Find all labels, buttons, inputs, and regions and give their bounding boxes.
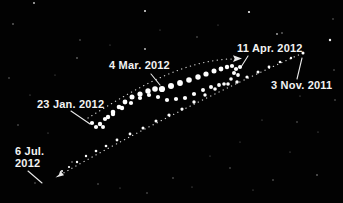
mars-dot: [183, 96, 187, 100]
star-dot: [332, 18, 333, 19]
arrowhead-retrograde-end-icon: [233, 55, 242, 62]
prograde-track-dotted-line: [60, 53, 303, 175]
mars-dot: [167, 113, 170, 116]
mars-dot: [219, 67, 224, 72]
mars-dot: [129, 101, 133, 105]
mars-dot: [94, 125, 98, 129]
mars-position-dots: [61, 52, 305, 173]
star-dot: [146, 192, 147, 193]
mars-dot: [142, 127, 145, 130]
mars-dot: [177, 80, 183, 86]
mars-dot: [90, 121, 94, 125]
mars-dot: [234, 67, 238, 71]
pointer-line-11-apr: [241, 56, 248, 67]
mars-dot: [226, 82, 230, 86]
mars-dot: [129, 133, 132, 136]
mars-dot: [203, 71, 208, 76]
mars-dot: [106, 115, 110, 119]
star-dot: [159, 29, 160, 30]
star-dot: [71, 161, 73, 163]
star-dot: [296, 121, 297, 122]
mars-dot: [225, 65, 229, 69]
star-dot: [196, 36, 197, 37]
date-label-23-jan-2012: 23 Jan. 2012: [37, 98, 104, 110]
mars-dot: [209, 85, 213, 89]
star-dot: [248, 11, 250, 13]
mars-dot: [117, 105, 122, 110]
mars-dot: [212, 69, 217, 74]
mars-dot: [279, 61, 282, 64]
mars-dot: [111, 110, 116, 115]
mars-dot: [245, 75, 248, 78]
date-label-11-apr-2012: 11 Apr. 2012: [237, 42, 303, 54]
star-dot: [47, 132, 48, 133]
mars-dot: [222, 82, 226, 86]
mars-dot: [290, 57, 292, 59]
star-dot: [97, 183, 98, 184]
mars-dot: [229, 77, 233, 81]
mars-dot: [152, 86, 158, 92]
date-label-3-nov-2011: 3 Nov. 2011: [271, 79, 332, 91]
mars-dot: [268, 66, 271, 69]
star-dot: [252, 189, 253, 190]
mars-dot: [238, 65, 242, 69]
star-dot: [54, 74, 55, 75]
mars-dot: [155, 120, 158, 123]
mars-dot: [95, 150, 98, 153]
mars-dot: [145, 88, 150, 93]
star-dot: [217, 24, 218, 25]
star-dot: [209, 155, 210, 156]
star-dot: [17, 124, 18, 125]
star-dot: [239, 141, 240, 142]
mars-dot: [192, 100, 195, 103]
mars-dot: [101, 125, 105, 129]
mars-dot: [232, 71, 236, 75]
star-dot: [144, 48, 146, 50]
mars-dot: [105, 145, 108, 148]
mars-retrograde-figure: 4 Mar. 2012 11 Apr. 2012 3 Nov. 2011 23 …: [0, 0, 343, 203]
star-dot: [334, 99, 335, 100]
mars-dot: [116, 139, 119, 142]
star-dot: [316, 174, 318, 176]
mars-dot: [186, 77, 192, 83]
mars-dot: [98, 122, 102, 126]
star-dot: [33, 2, 35, 4]
mars-dot: [130, 95, 135, 100]
mars-dot: [137, 91, 142, 96]
pointer-line-6-jul: [28, 171, 42, 183]
mars-dot: [235, 80, 238, 83]
mars-dot: [85, 155, 87, 157]
pointer-line-4-mar: [151, 74, 160, 85]
mars-dot: [217, 83, 221, 87]
star-dot: [317, 131, 318, 132]
star-dot: [119, 187, 120, 188]
mars-dot: [203, 93, 206, 96]
mars-dot: [156, 95, 160, 99]
star-dot: [12, 23, 14, 25]
mars-dot: [61, 170, 63, 172]
pointer-line-3-nov: [297, 58, 302, 79]
mars-dot: [76, 161, 78, 163]
mars-dot: [201, 88, 205, 92]
mars-dot: [168, 83, 174, 89]
mars-dot: [174, 97, 178, 101]
star-dot: [261, 119, 262, 120]
star-dot: [229, 167, 230, 168]
star-dot: [333, 69, 334, 70]
date-label-6-jul-2012: 6 Jul. 2012: [15, 145, 44, 169]
mars-dot: [68, 166, 70, 168]
date-label-6-jul-line1: 6 Jul.: [15, 145, 44, 157]
star-dot: [79, 39, 80, 40]
star-dot: [144, 10, 146, 12]
star-dot: [276, 33, 278, 35]
mars-dot: [123, 100, 128, 105]
date-label-6-jul-line2: 2012: [15, 157, 44, 169]
star-dot: [34, 182, 35, 183]
mars-dot: [257, 71, 260, 74]
star-dot: [289, 151, 290, 152]
date-label-4-mar-2012: 4 Mar. 2012: [109, 59, 170, 71]
star-dot: [281, 32, 283, 34]
mars-dot: [213, 87, 217, 91]
star-dot: [329, 39, 331, 41]
mars-dot: [195, 74, 200, 79]
